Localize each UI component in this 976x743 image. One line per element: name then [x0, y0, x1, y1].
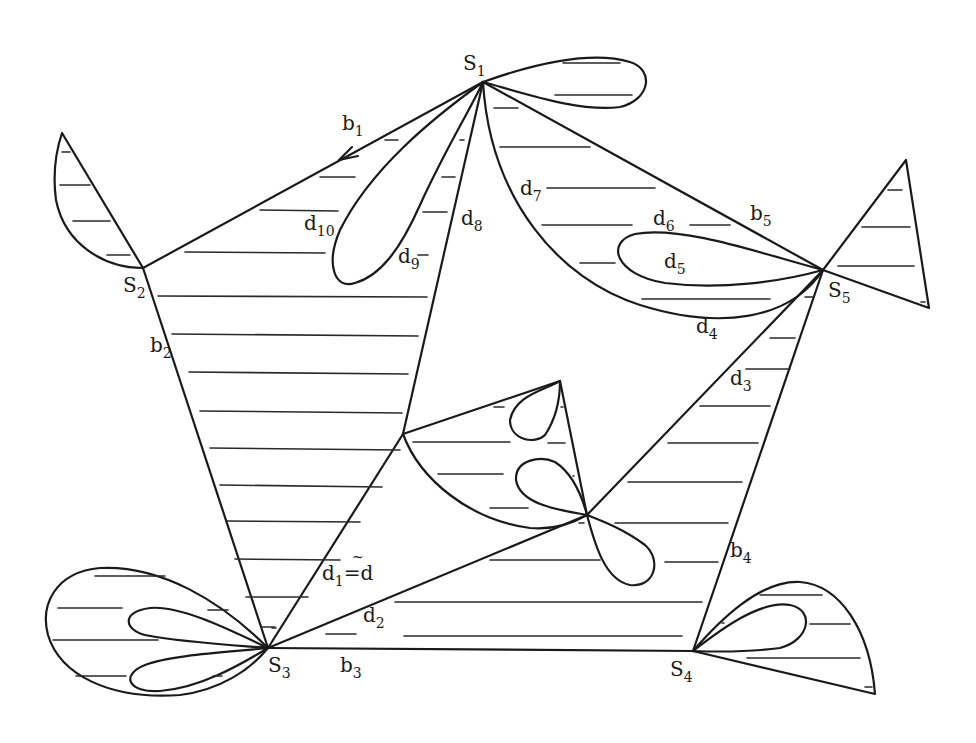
vertex-label-s5: S5 [828, 278, 851, 306]
edge-label-d7: d7 [520, 176, 542, 204]
edge-label-d10: d10 [304, 211, 335, 239]
edge-b2 [143, 268, 268, 648]
graph-edges [46, 58, 929, 696]
edge-labels: b1 b2 b3 b4 b5 d1=d ~ d2 d3 d4 d5 d6 d7 … [150, 111, 772, 681]
lobe-s2 [55, 133, 143, 268]
loop-c-down [587, 515, 654, 585]
edge-label-d2: d2 [363, 603, 385, 631]
edge-d5-d6-loop [618, 232, 823, 285]
edge-b5 [483, 82, 823, 270]
edge-b3 [268, 648, 693, 651]
edge-label-b3: b3 [340, 653, 362, 681]
vertex-label-s3: S3 [268, 653, 291, 681]
edge-label-d3: d3 [730, 366, 752, 394]
hatching [53, 63, 925, 687]
edge-label-d5: d5 [664, 249, 686, 277]
tilde-mark: ~ [352, 549, 364, 565]
edge-label-b2: b2 [150, 333, 172, 361]
edge-label-b1: b1 [342, 111, 364, 139]
edge-label-d6: d6 [653, 206, 675, 234]
edge-label-b5: b5 [750, 201, 772, 229]
arrow-icon [339, 147, 358, 160]
vertex-label-s2: S2 [123, 273, 146, 301]
edge-label-d8: d8 [461, 206, 483, 234]
edge-inner-ab [403, 381, 560, 434]
lobe-s3-lower [130, 648, 268, 691]
edge-label-d1: d1=d [322, 561, 373, 589]
vertex-label-s1: S1 [463, 51, 486, 79]
planar-graph-diagram: S1 S2 S3 S4 S5 b1 b2 b3 b4 b5 d1=d ~ d2 … [0, 0, 976, 743]
edge-label-d9: d9 [398, 244, 420, 272]
edge-d2 [268, 515, 587, 648]
vertex-label-s4: S4 [670, 657, 693, 685]
edge-d3 [587, 270, 823, 515]
lobe-s4-inner [693, 604, 806, 651]
loop-s1-top [483, 58, 646, 108]
edge-inner-ac-curve [403, 434, 587, 528]
lobe-s4-outer [693, 582, 875, 694]
edge-label-b4: b4 [730, 538, 752, 566]
edge-b1 [143, 82, 483, 268]
edge-inner-bc [560, 381, 587, 515]
